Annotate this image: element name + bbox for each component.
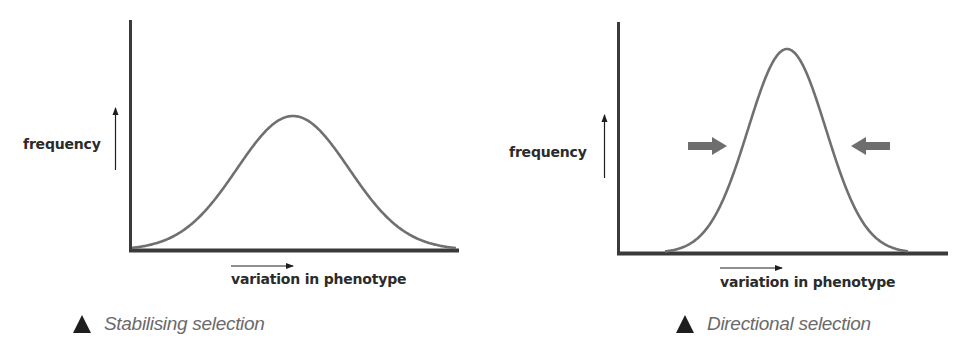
caption-directional: Directional selection [676, 313, 871, 335]
x-axis-label: variation in phenotype [720, 274, 895, 290]
panel-directional: frequency variation in phenotype Directi… [481, 0, 962, 364]
y-axis-label: frequency [509, 144, 587, 160]
x-axis-label: variation in phenotype [231, 271, 406, 287]
caption-text: Directional selection [707, 313, 871, 335]
caption-text: Stabilising selection [104, 313, 265, 335]
triangle-marker-icon [676, 315, 694, 333]
triangle-marker-icon [73, 315, 91, 333]
caption-stabilising: Stabilising selection [73, 313, 265, 335]
panel-stabilising: frequency variation in phenotype Stabili… [0, 0, 481, 364]
y-axis-label: frequency [23, 136, 101, 152]
